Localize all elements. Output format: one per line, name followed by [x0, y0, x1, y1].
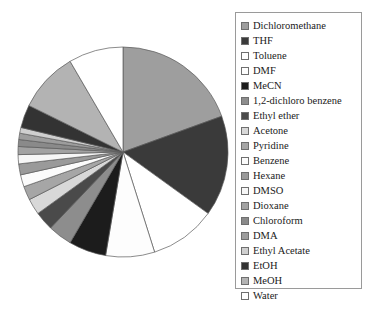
legend-item[interactable]: 1,2-dichloro benzene: [241, 93, 361, 108]
legend-item[interactable]: Ethyl Acetate: [241, 243, 361, 258]
pie-slice-group: [18, 47, 228, 257]
legend-item-label: Ethyl Acetate: [253, 245, 310, 256]
legend-item-label: Ethyl ether: [253, 110, 299, 121]
legend-color-swatch: [241, 97, 249, 105]
legend-item-label: MeOH: [253, 275, 282, 286]
legend-color-swatch: [241, 157, 249, 165]
legend-color-swatch: [241, 292, 249, 300]
legend-item[interactable]: Dioxane: [241, 198, 361, 213]
legend-color-swatch: [241, 277, 249, 285]
legend-item-label: EtOH: [253, 260, 278, 271]
chart-legend: DichloromethaneTHFTolueneDMFMeCN1,2-dich…: [235, 12, 362, 289]
legend-item[interactable]: Acetone: [241, 123, 361, 138]
legend-item-label: Chloroform: [253, 215, 303, 226]
legend-color-swatch: [241, 202, 249, 210]
legend-item-label: Dichloromethane: [253, 20, 326, 31]
legend-item[interactable]: Dichloromethane: [241, 18, 361, 33]
legend-color-swatch: [241, 112, 249, 120]
legend-color-swatch: [241, 247, 249, 255]
legend-color-swatch: [241, 82, 249, 90]
legend-item-label: THF: [253, 35, 273, 46]
legend-item[interactable]: Hexane: [241, 168, 361, 183]
legend-item[interactable]: DMF: [241, 63, 361, 78]
legend-item[interactable]: Chloroform: [241, 213, 361, 228]
legend-item[interactable]: Ethyl ether: [241, 108, 361, 123]
legend-color-swatch: [241, 127, 249, 135]
legend-item-label: Dioxane: [253, 200, 289, 211]
legend-item[interactable]: THF: [241, 33, 361, 48]
legend-item[interactable]: EtOH: [241, 258, 361, 273]
legend-item-label: Benzene: [253, 155, 289, 166]
legend-color-swatch: [241, 217, 249, 225]
legend-color-swatch: [241, 22, 249, 30]
legend-item-label: MeCN: [253, 80, 282, 91]
legend-item[interactable]: DMA: [241, 228, 361, 243]
chart-figure: DichloromethaneTHFTolueneDMFMeCN1,2-dich…: [0, 0, 372, 315]
legend-item[interactable]: MeCN: [241, 78, 361, 93]
legend-item[interactable]: MeOH: [241, 273, 361, 288]
legend-item-label: DMA: [253, 230, 278, 241]
legend-item-label: Toluene: [253, 50, 287, 61]
legend-color-swatch: [241, 232, 249, 240]
legend-item-label: Hexane: [253, 170, 285, 181]
legend-item-label: DMF: [253, 65, 276, 76]
legend-color-swatch: [241, 187, 249, 195]
legend-color-swatch: [241, 67, 249, 75]
legend-item-label: Acetone: [253, 125, 288, 136]
legend-item[interactable]: Pyridine: [241, 138, 361, 153]
legend-item-label: 1,2-dichloro benzene: [253, 95, 342, 106]
legend-color-swatch: [241, 142, 249, 150]
legend-color-swatch: [241, 172, 249, 180]
legend-item[interactable]: DMSO: [241, 183, 361, 198]
legend-item-label: DMSO: [253, 185, 283, 196]
legend-item[interactable]: Toluene: [241, 48, 361, 63]
pie-chart-area: [0, 0, 232, 315]
legend-item-label: Pyridine: [253, 140, 289, 151]
legend-item[interactable]: Benzene: [241, 153, 361, 168]
pie-chart: [0, 0, 232, 315]
legend-color-swatch: [241, 52, 249, 60]
legend-item[interactable]: Water: [241, 288, 361, 303]
legend-item-label: Water: [253, 290, 278, 301]
legend-items-list: DichloromethaneTHFTolueneDMFMeCN1,2-dich…: [241, 18, 361, 303]
legend-color-swatch: [241, 262, 249, 270]
legend-color-swatch: [241, 37, 249, 45]
